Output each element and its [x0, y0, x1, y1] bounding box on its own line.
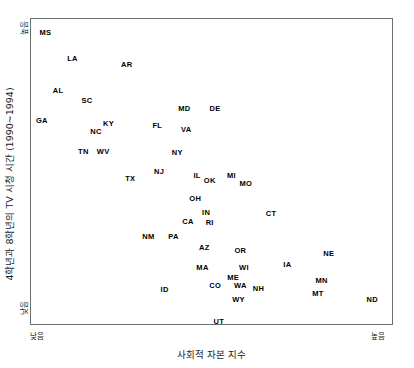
- scatter-plot-figure: 4학년과 8학년의 TV 시청 시간 (1990~1994) 높음 낮음 MSL…: [0, 0, 414, 368]
- data-point-ct: CT: [266, 210, 277, 218]
- data-point-wa: WA: [234, 282, 247, 290]
- plot-area: MSLAARALSCMDDEGANCKYFLVATNWVNYNJTXILOKMI…: [30, 18, 393, 325]
- data-point-wv: WV: [97, 148, 110, 156]
- data-point-ne: NE: [323, 250, 334, 258]
- x-axis-high-label: 높음: [371, 330, 385, 341]
- data-point-ia: IA: [283, 261, 291, 269]
- x-axis-title: 사회적 자본 지수: [30, 347, 393, 361]
- y-axis-high-label: 높음: [16, 16, 30, 38]
- x-axis-low-label: 낮음: [30, 330, 44, 341]
- data-point-wi: WI: [239, 264, 249, 272]
- data-point-la: LA: [67, 55, 78, 63]
- data-point-oh: OH: [189, 195, 201, 203]
- data-point-mt: MT: [312, 290, 323, 298]
- data-point-al: AL: [53, 87, 64, 95]
- data-point-nc: NC: [90, 128, 101, 136]
- data-point-ar: AR: [121, 61, 132, 69]
- data-point-az: AZ: [199, 244, 210, 252]
- data-point-or: OR: [234, 247, 246, 255]
- data-point-de: DE: [210, 105, 221, 113]
- data-point-in: IN: [202, 209, 210, 217]
- data-point-va: VA: [181, 127, 191, 135]
- data-point-tx: TX: [125, 175, 135, 183]
- data-point-nj: NJ: [154, 168, 164, 176]
- data-point-ut: UT: [213, 319, 224, 327]
- data-point-ma: MA: [196, 264, 208, 272]
- data-point-nm: NM: [142, 233, 154, 241]
- data-point-co: CO: [209, 282, 221, 290]
- data-point-nd: ND: [366, 296, 377, 304]
- data-point-nh: NH: [253, 285, 264, 293]
- data-point-sc: SC: [81, 98, 92, 106]
- y-axis-title-text: 4학년과 8학년의 TV 시청 시간 (1990~1994): [2, 87, 16, 280]
- data-point-tn: TN: [78, 148, 89, 156]
- data-point-ca: CA: [182, 218, 193, 226]
- data-point-fl: FL: [152, 122, 162, 130]
- y-axis-low-text: 낮음: [18, 300, 29, 314]
- data-point-mo: MO: [239, 180, 252, 188]
- data-point-ok: OK: [204, 177, 216, 185]
- data-point-ky: KY: [103, 120, 114, 128]
- data-point-pa: PA: [168, 233, 178, 241]
- y-axis-low-label: 낮음: [16, 296, 30, 318]
- data-point-ri: RI: [206, 220, 214, 228]
- data-point-ga: GA: [36, 117, 48, 125]
- data-point-mi: MI: [227, 172, 236, 180]
- data-point-il: IL: [193, 172, 200, 180]
- data-point-mn: MN: [315, 278, 327, 286]
- y-axis-high-text: 높음: [18, 20, 29, 34]
- data-point-wy: WY: [232, 296, 245, 304]
- data-point-ny: NY: [172, 149, 183, 157]
- data-point-ms: MS: [40, 29, 52, 37]
- data-point-md: MD: [178, 105, 190, 113]
- data-point-id: ID: [161, 287, 169, 295]
